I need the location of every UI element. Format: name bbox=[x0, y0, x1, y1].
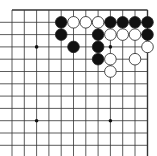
black-stone bbox=[117, 17, 129, 29]
white-stone bbox=[80, 17, 92, 29]
white-stone bbox=[68, 17, 80, 29]
white-stone bbox=[105, 29, 117, 41]
white-stone bbox=[105, 53, 117, 65]
white-stone bbox=[129, 53, 141, 65]
black-stone bbox=[92, 53, 104, 65]
black-stone bbox=[105, 17, 117, 29]
black-stone bbox=[142, 29, 154, 41]
white-stone bbox=[117, 29, 129, 41]
star-point-icon bbox=[109, 45, 113, 49]
white-stone bbox=[92, 17, 104, 29]
black-stone bbox=[92, 29, 104, 41]
black-stone bbox=[68, 41, 80, 53]
black-stone bbox=[142, 17, 154, 29]
star-point-icon bbox=[109, 119, 113, 123]
white-stone bbox=[142, 41, 154, 53]
black-stone bbox=[129, 17, 141, 29]
star-point-icon bbox=[35, 45, 39, 49]
star-point-icon bbox=[35, 119, 39, 123]
go-board[interactable] bbox=[0, 0, 157, 156]
black-stone bbox=[55, 29, 67, 41]
black-stone bbox=[92, 41, 104, 53]
black-stone bbox=[55, 17, 67, 29]
white-stone bbox=[129, 29, 141, 41]
white-stone bbox=[105, 66, 117, 78]
